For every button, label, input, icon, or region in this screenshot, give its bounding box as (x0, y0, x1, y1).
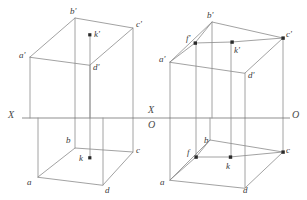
right-point-k-dot (229, 155, 232, 158)
right-upper-top-face (170, 22, 283, 73)
left-label-k: k (79, 154, 83, 163)
right-label-a: a (160, 178, 165, 187)
left-label-d: d (105, 186, 110, 195)
left-label-b: b (66, 136, 71, 145)
axis-label-right-o: O (292, 110, 299, 120)
right-point-f-dot (194, 155, 197, 158)
right-label-k-prime: k' (234, 46, 240, 55)
right-label-a-prime: a' (159, 55, 165, 64)
left-point-k-prime-dot (88, 33, 91, 36)
left-point-k-dot (88, 156, 91, 159)
right-upper-segment-f-a (170, 43, 195, 62)
right-label-f: f (187, 148, 190, 157)
left-label-c: c (136, 146, 140, 155)
right-label-b-prime: b' (207, 11, 213, 20)
left-lower-bottom-face (38, 148, 133, 185)
right-upper-segment-f-b (195, 22, 212, 43)
projection-diagram-svg (0, 0, 307, 200)
right-label-d-prime: d' (248, 71, 254, 80)
right-point-f-prime-dot (194, 41, 197, 44)
axis-label-mid-o: O (148, 120, 155, 130)
right-label-d: d (243, 186, 248, 195)
right-point-c-prime-dot (281, 36, 284, 39)
right-label-c-prime: c' (286, 30, 292, 39)
right-label-c: c (286, 146, 290, 155)
right-point-k-prime-dot (230, 40, 233, 43)
right-point-c-dot (281, 150, 284, 153)
right-upper-segment-k-c (232, 38, 283, 42)
technical-drawing-figure: X X O O b' c' a' k' d' b c k a d b' c' f… (0, 0, 307, 200)
right-lower-segment-k-c (230, 152, 283, 157)
right-lower-segment-f-a (170, 157, 196, 180)
left-label-a: a (27, 178, 32, 187)
left-label-b-prime: b' (70, 7, 76, 16)
right-label-b: b (204, 136, 209, 145)
left-label-a-prime: a' (19, 51, 25, 60)
right-upper-segment-f-k (195, 42, 232, 43)
left-upper-top-face (30, 18, 133, 65)
axis-label-mid-x: X (148, 105, 154, 115)
left-label-k-prime: k' (94, 30, 100, 39)
right-label-k: k (226, 162, 230, 171)
right-label-f-prime: f' (186, 34, 190, 43)
left-label-d-prime: d' (93, 63, 99, 72)
axis-label-left-x: X (8, 110, 14, 120)
left-label-c-prime: c' (136, 20, 142, 29)
